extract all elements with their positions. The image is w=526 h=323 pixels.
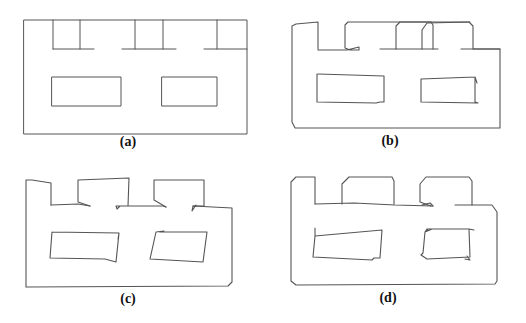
panel-label-b: (b) bbox=[381, 134, 398, 148]
panel-b-room-3-loop bbox=[422, 22, 470, 49]
panel-d-inner-loop-left bbox=[313, 228, 382, 260]
panel-b-room-2-loop bbox=[396, 22, 433, 49]
panel-d-room-3-loop bbox=[420, 177, 472, 206]
panel-a-inner-block-left bbox=[52, 77, 121, 106]
panel-a-drawing bbox=[24, 20, 247, 134]
floorplan-drawing bbox=[0, 0, 526, 323]
panel-c-drawing bbox=[26, 178, 232, 287]
panel-d-inner-loop-right bbox=[421, 229, 474, 259]
panel-b-drawing bbox=[292, 22, 500, 128]
panel-label-c: (c) bbox=[120, 292, 136, 306]
panel-c-inner-loop-left bbox=[50, 232, 119, 262]
panel-d-drawing bbox=[291, 177, 497, 285]
panel-b-inner-loop-right bbox=[421, 77, 478, 103]
panel-c-room-3-loop bbox=[154, 180, 204, 207]
panel-c-room-2-loop bbox=[78, 178, 166, 209]
panel-c-inner-loop-right bbox=[150, 231, 207, 262]
panel-b-inner-loop-left bbox=[317, 74, 384, 103]
panel-label-d: (d) bbox=[379, 291, 396, 305]
panel-c-outer-trajectory bbox=[26, 180, 232, 287]
panel-a-inner-block-right bbox=[162, 77, 217, 106]
panel-d-corridor-floor bbox=[315, 203, 433, 206]
panel-label-a: (a) bbox=[120, 135, 136, 149]
figure-four-panel-floorplan: (a) (b) (c) (d) bbox=[0, 0, 526, 323]
panel-d-room-2-loop bbox=[342, 177, 394, 204]
